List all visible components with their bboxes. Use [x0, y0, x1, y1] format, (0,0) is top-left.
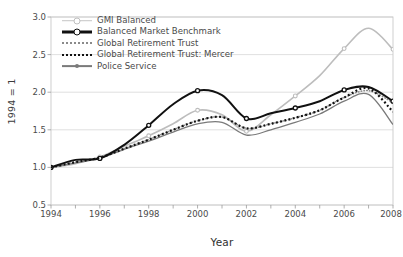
legend-label: Balanced Market Benchmark: [97, 26, 221, 37]
legend-item-balanced-market-benchmark[interactable]: Balanced Market Benchmark: [62, 26, 234, 37]
legend-item-global-retirement-trust[interactable]: Global Retirement Trust: [62, 38, 234, 49]
legend-item-global-retirement-trust-mercer[interactable]: Global Retirement Trust: Mercer: [62, 49, 234, 60]
legend-item-police-service[interactable]: Police Service: [62, 61, 234, 72]
chart-legend: GMI Balanced Balanced Market Benchmark G…: [62, 15, 234, 72]
line-chart: 1994 = 1 3.0 2.5 2.0 1.5 1.0 0.5 1994 19…: [0, 0, 403, 257]
legend-label: Global Retirement Trust: Mercer: [97, 49, 234, 60]
legend-swatch-icon: [62, 38, 92, 49]
legend-swatch-icon: [62, 61, 92, 72]
legend-label: GMI Balanced: [97, 15, 156, 26]
legend-label: Global Retirement Trust: [97, 38, 198, 49]
legend-label: Police Service: [97, 61, 156, 72]
legend-swatch-icon: [62, 27, 92, 38]
legend-swatch-icon: [62, 49, 92, 60]
legend-item-gmi-balanced[interactable]: GMI Balanced: [62, 15, 234, 26]
legend-swatch-icon: [62, 15, 92, 26]
